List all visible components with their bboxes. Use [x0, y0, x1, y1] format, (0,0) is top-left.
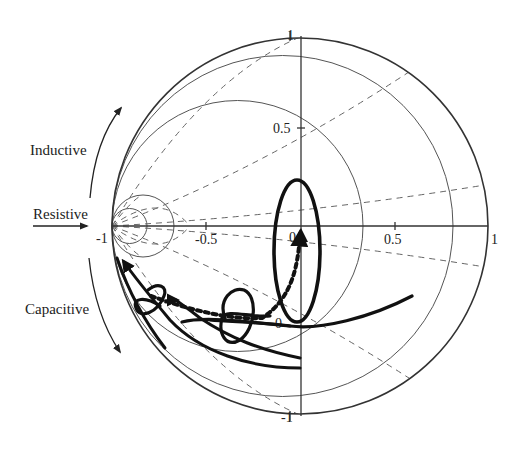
tick-y-1: 1 [287, 28, 294, 43]
capacitive-arrow [89, 258, 120, 352]
tick-x-0: 0 [289, 230, 296, 245]
trajectories [117, 180, 412, 368]
center-arrowhead [294, 228, 308, 242]
label-capacitive: Capacitive [25, 301, 89, 317]
label-inductive: Inductive [30, 142, 87, 158]
tick-y-05: 0.5 [273, 121, 291, 136]
tick-x-neg1: -1 [96, 231, 108, 246]
axes [112, 31, 488, 421]
smith-chart-figure: -1 -0.5 0 0.5 1 1 0.5 0 -1 Inductive Res… [0, 0, 516, 449]
tick-x-1: 1 [491, 232, 498, 247]
label-resistive: Resistive [33, 206, 88, 222]
tick-x-05: 0.5 [384, 232, 402, 247]
dotted-trajectory [151, 234, 300, 318]
tick-y-neg1: -1 [281, 410, 293, 425]
tick-x-neg05: -0.5 [195, 232, 217, 247]
